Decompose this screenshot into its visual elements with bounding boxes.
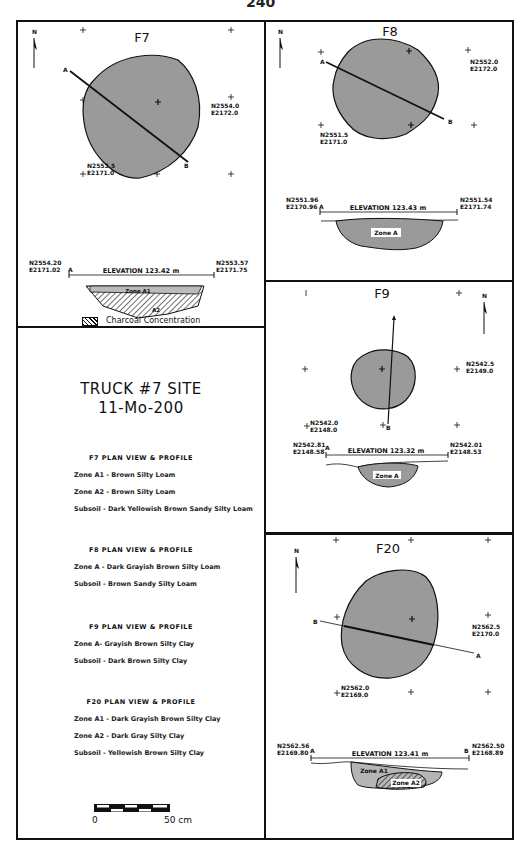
north-label: N (32, 28, 37, 35)
svg-text:N2551.5: N2551.5 (320, 131, 348, 138)
svg-text:Zone A1: Zone A1 (360, 767, 388, 774)
svg-text:E2171.75: E2171.75 (216, 266, 247, 273)
svg-text:N2542.81: N2542.81 (293, 441, 325, 448)
page-number: 240 (246, 0, 275, 10)
panel-f7: N A B N2554.0 E2172.0 N2553.5 E2171.0 F7… (16, 20, 266, 328)
panel-f20: N B A N2562.5 E2170.0 N2562.0 E2169.0 F2… (264, 533, 514, 840)
svg-text:Zone A: Zone A (374, 229, 398, 236)
svg-text:Zone A: Zone A (375, 472, 399, 479)
svg-text:N: N (294, 547, 299, 554)
svg-text:A: A (319, 203, 324, 210)
svg-text:E2171.02: E2171.02 (29, 266, 60, 273)
svg-text:Zone A2: Zone A2 (392, 779, 420, 786)
f7-drawing: N A B N2554.0 E2172.0 N2553.5 E2171.0 F7… (18, 22, 264, 326)
svg-text:E2172.0: E2172.0 (211, 109, 238, 116)
svg-text:N2542.0: N2542.0 (310, 419, 338, 426)
svg-text:F9: F9 (374, 286, 390, 301)
panel-key: TRUCK #7 SITE 11-Mo-200 F7 PLAN VIEW & P… (16, 326, 266, 840)
f8-feature-outline (333, 39, 439, 139)
svg-text:ELEVATION 123.32 m: ELEVATION 123.32 m (348, 447, 425, 455)
svg-text:N2551.96: N2551.96 (286, 196, 318, 203)
legend-label: Charcoal Concentration (106, 316, 200, 325)
svg-text:N2542.5: N2542.5 (466, 360, 494, 367)
f9-drawing: N B N2542.5 E2149.0 N2542.0 E2148.0 F9 N… (266, 282, 512, 532)
svg-text:E2149.0: E2149.0 (466, 367, 493, 374)
svg-text:N2562.0: N2562.0 (341, 684, 369, 691)
svg-text:B: B (448, 118, 453, 125)
scale-start: 0 (92, 815, 98, 825)
svg-text:A: A (68, 266, 73, 273)
svg-text:E2171.0: E2171.0 (87, 169, 114, 176)
svg-text:N2562.50: N2562.50 (472, 742, 504, 749)
svg-text:E2171.0: E2171.0 (320, 138, 347, 145)
svg-text:N: N (278, 28, 283, 35)
svg-text:F8: F8 (382, 24, 398, 39)
panel-f9: N B N2542.5 E2149.0 N2542.0 E2148.0 F9 N… (264, 280, 514, 534)
svg-text:N2562.56: N2562.56 (277, 742, 309, 749)
svg-text:E2168.89: E2168.89 (472, 749, 503, 756)
svg-text:N2542.01: N2542.01 (450, 441, 482, 448)
svg-text:N2562.5: N2562.5 (472, 623, 500, 630)
svg-text:N2551.54: N2551.54 (460, 196, 492, 203)
svg-text:B: B (313, 618, 318, 625)
svg-text:A2: A2 (152, 307, 160, 313)
f8-drawing: N A B N2552.0 E2172.0 N2551.5 E2171.0 F8… (266, 22, 512, 280)
svg-text:N2554.20: N2554.20 (29, 259, 61, 266)
legend-swatch (82, 317, 98, 326)
svg-text:E2148.58: E2148.58 (293, 448, 324, 455)
f20-drawing: N B A N2562.5 E2170.0 N2562.0 E2169.0 F2… (266, 535, 512, 838)
svg-text:E2169.0: E2169.0 (341, 691, 368, 698)
svg-text:Zone A1: Zone A1 (125, 288, 151, 294)
svg-text:E2170.0: E2170.0 (472, 630, 499, 637)
svg-text:N2553.5: N2553.5 (87, 162, 115, 169)
svg-text:N: N (482, 292, 487, 299)
svg-text:E2170.96: E2170.96 (286, 203, 317, 210)
svg-text:E2171.74: E2171.74 (460, 203, 491, 210)
svg-text:B: B (386, 424, 391, 431)
f7-title: F7 (134, 30, 150, 45)
scale-bar-icon (18, 328, 264, 838)
svg-text:A: A (63, 66, 68, 73)
svg-text:E2172.0: E2172.0 (470, 65, 497, 72)
svg-text:B: B (184, 162, 189, 169)
svg-text:ELEVATION 123.41 m: ELEVATION 123.41 m (352, 750, 429, 758)
svg-text:B: B (464, 747, 469, 754)
svg-text:N2553.57: N2553.57 (216, 259, 248, 266)
svg-text:F20: F20 (376, 541, 400, 556)
svg-text:A: A (325, 444, 330, 451)
svg-text:A: A (310, 747, 315, 754)
svg-text:A: A (320, 58, 325, 65)
svg-text:E2148.0: E2148.0 (310, 426, 337, 433)
f20-feature-outline (341, 570, 438, 678)
svg-text:E2169.80: E2169.80 (277, 749, 308, 756)
svg-text:ELEVATION 123.42 m: ELEVATION 123.42 m (103, 267, 180, 275)
scale-end: 50 cm (164, 815, 192, 825)
f9-feature-outline (351, 350, 415, 409)
svg-text:A: A (476, 652, 481, 659)
svg-text:E2148.53: E2148.53 (450, 448, 481, 455)
svg-text:N2554.0: N2554.0 (211, 102, 239, 109)
f7-feature-outline (83, 55, 200, 178)
svg-text:N2552.0: N2552.0 (470, 58, 498, 65)
svg-text:ELEVATION 123.43 m: ELEVATION 123.43 m (350, 204, 427, 212)
panel-f8: N A B N2552.0 E2172.0 N2551.5 E2171.0 F8… (264, 20, 514, 282)
